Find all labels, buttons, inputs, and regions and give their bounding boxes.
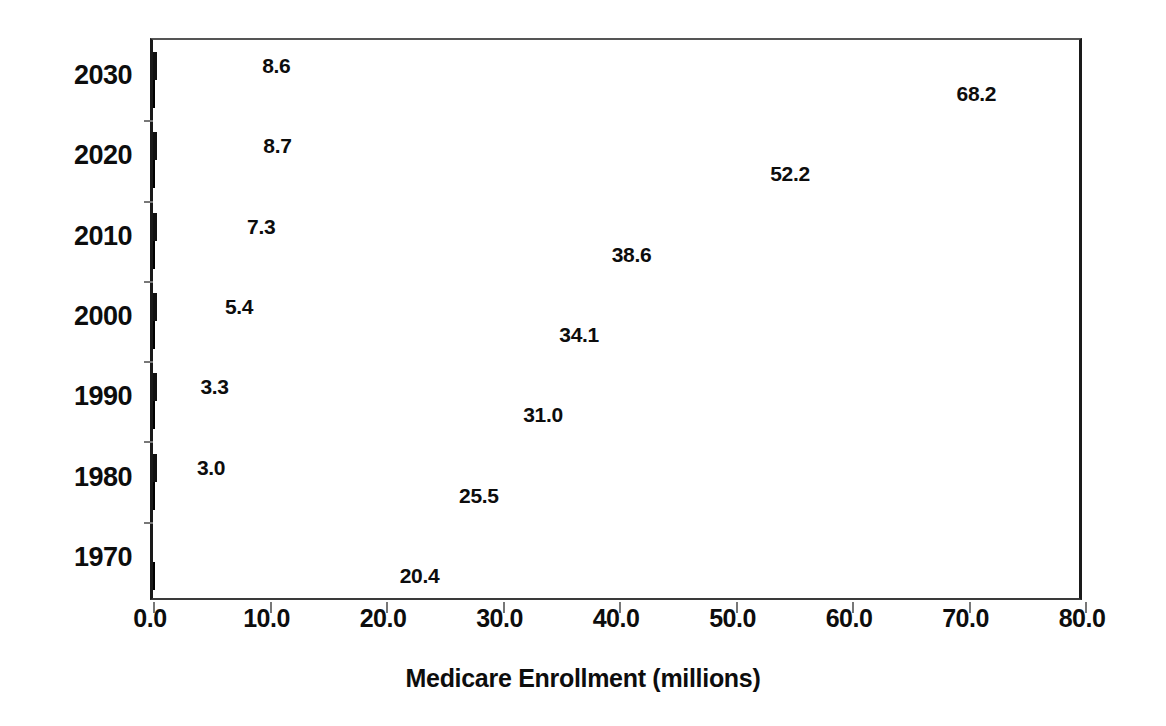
bar-rect bbox=[153, 373, 157, 401]
bar-dark-2020: 52.2 bbox=[153, 160, 761, 188]
bar-value-label: 25.5 bbox=[459, 484, 499, 508]
bar-value-label: 68.2 bbox=[957, 82, 997, 106]
y-axis-tick bbox=[144, 120, 153, 122]
y-axis-tick bbox=[144, 201, 153, 203]
bar-dark-1970: 20.4 bbox=[153, 562, 391, 590]
y-axis-tick bbox=[144, 522, 153, 524]
x-axis-tick-label: 0.0 bbox=[133, 604, 166, 633]
bar-rect bbox=[153, 132, 157, 160]
bar-value-label: 31.0 bbox=[523, 403, 563, 427]
x-axis-tick-label: 80.0 bbox=[1059, 604, 1106, 633]
bar-group-2020: 8.752.2 bbox=[153, 120, 1079, 200]
bar-value-label: 7.3 bbox=[247, 215, 275, 239]
bar-light-1990: 3.3 bbox=[153, 373, 191, 401]
bar-rect bbox=[153, 454, 157, 482]
bar-value-label: 20.4 bbox=[400, 564, 440, 588]
bar-value-label: 8.7 bbox=[263, 134, 291, 158]
x-axis-tick-label: 50.0 bbox=[709, 604, 756, 633]
bar-group-1990: 3.331.0 bbox=[153, 361, 1079, 441]
bar-rect bbox=[153, 562, 155, 590]
bar-light-2000: 5.4 bbox=[153, 293, 216, 321]
bar-value-label: 3.3 bbox=[200, 375, 228, 399]
bar-light-1980: 3.0 bbox=[153, 454, 188, 482]
bar-light-2030: 8.6 bbox=[153, 52, 253, 80]
bar-dark-2010: 38.6 bbox=[153, 241, 603, 269]
x-axis-tick-label: 30.0 bbox=[476, 604, 523, 633]
x-axis-tick-label: 70.0 bbox=[942, 604, 989, 633]
bar-rect bbox=[153, 241, 155, 269]
plot-area: 8.668.28.752.27.338.65.434.13.331.03.025… bbox=[150, 38, 1082, 600]
y-axis-label-2030: 2030 bbox=[0, 60, 132, 91]
y-axis-tick bbox=[144, 281, 153, 283]
x-axis-tick-label: 60.0 bbox=[826, 604, 873, 633]
bar-dark-2000: 34.1 bbox=[153, 321, 550, 349]
bar-rect bbox=[153, 293, 157, 321]
bar-dark-1980: 25.5 bbox=[153, 482, 450, 510]
bar-light-2020: 8.7 bbox=[153, 132, 254, 160]
y-axis-label-2020: 2020 bbox=[0, 140, 132, 171]
bar-group-1970: 20.4 bbox=[153, 522, 1079, 602]
bar-value-label: 52.2 bbox=[770, 162, 810, 186]
y-axis-label-2010: 2010 bbox=[0, 221, 132, 252]
bar-dark-2030: 68.2 bbox=[153, 80, 948, 108]
bar-rect bbox=[153, 401, 155, 429]
bar-value-label: 8.6 bbox=[262, 54, 290, 78]
bar-rect bbox=[153, 52, 157, 80]
y-axis-label-1980: 1980 bbox=[0, 462, 132, 493]
bar-dark-1990: 31.0 bbox=[153, 401, 514, 429]
bar-rect bbox=[153, 160, 155, 188]
bar-group-1980: 3.025.5 bbox=[153, 441, 1079, 521]
bar-group-2030: 8.668.2 bbox=[153, 40, 1079, 120]
bar-rect bbox=[153, 482, 155, 510]
bar-group-2000: 5.434.1 bbox=[153, 281, 1079, 361]
bar-value-label: 5.4 bbox=[225, 295, 253, 319]
x-axis-tick-label: 10.0 bbox=[243, 604, 290, 633]
bar-rect bbox=[153, 321, 155, 349]
y-axis-tick bbox=[144, 361, 153, 363]
x-axis-tick-label: 40.0 bbox=[593, 604, 640, 633]
bar-group-2010: 7.338.6 bbox=[153, 201, 1079, 281]
bar-light-2010: 7.3 bbox=[153, 213, 238, 241]
y-axis-label-2000: 2000 bbox=[0, 301, 132, 332]
x-axis-title: Medicare Enrollment (millions) bbox=[0, 664, 1166, 693]
bar-value-label: 34.1 bbox=[559, 323, 599, 347]
x-axis-tick-label: 20.0 bbox=[360, 604, 407, 633]
chart-canvas: 2030202020102000199019801970 8.668.28.75… bbox=[0, 0, 1166, 726]
y-axis-label-1990: 1990 bbox=[0, 381, 132, 412]
bar-value-label: 38.6 bbox=[612, 243, 652, 267]
bar-rect bbox=[153, 213, 157, 241]
y-axis-tick bbox=[144, 441, 153, 443]
y-axis-label-1970: 1970 bbox=[0, 542, 132, 573]
bar-value-label: 3.0 bbox=[197, 456, 225, 480]
bar-rect bbox=[153, 80, 155, 108]
